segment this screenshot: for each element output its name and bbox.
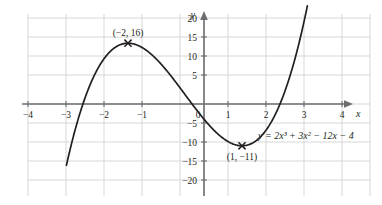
x-tick-label: 1 bbox=[226, 110, 231, 120]
y-tick-label: −5 bbox=[187, 119, 197, 129]
y-tick-label: −20 bbox=[182, 176, 197, 186]
y-tick-label: 5 bbox=[192, 71, 197, 81]
x-tick-label: 3 bbox=[302, 110, 307, 120]
graph-figure: −4 −3 −2 −1 0 1 2 3 4 20 15 10 5 −5 −10 … bbox=[0, 0, 382, 205]
y-axis-label: y bbox=[190, 9, 196, 20]
x-tick-label: −1 bbox=[137, 110, 147, 120]
x-axis-label: x bbox=[355, 108, 361, 119]
equation-label: y = 2x³ + 3x² − 12x − 4 bbox=[257, 130, 354, 141]
x-tick-label: −4 bbox=[23, 110, 33, 120]
x-tick-label: −3 bbox=[61, 110, 71, 120]
y-tick-label: −15 bbox=[182, 157, 197, 167]
x-tick-label: 4 bbox=[340, 110, 345, 120]
cubic-function-plot: −4 −3 −2 −1 0 1 2 3 4 20 15 10 5 −5 −10 … bbox=[0, 0, 382, 205]
x-tick-label: −2 bbox=[99, 110, 109, 120]
local-maximum-label: (−2, 16) bbox=[113, 28, 144, 39]
y-tick-label: −10 bbox=[182, 138, 197, 148]
local-minimum-label: (1, −11) bbox=[227, 152, 257, 163]
y-tick-label: 10 bbox=[188, 52, 198, 62]
y-tick-label: 15 bbox=[188, 33, 198, 43]
x-tick-label: 2 bbox=[264, 110, 269, 120]
